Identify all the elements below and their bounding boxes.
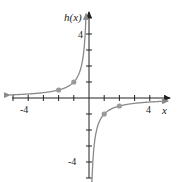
x-axis-label: x — [161, 104, 167, 116]
y-axis-label: h(x) — [64, 11, 82, 24]
data-point — [102, 111, 107, 116]
function-graph: h(x) x -4 4 4 -4 — [0, 0, 178, 182]
data-point — [71, 79, 76, 84]
x-tick-label-4: 4 — [146, 104, 151, 115]
y-tick-label-4: 4 — [78, 29, 83, 40]
x-tick-label-neg4: -4 — [20, 104, 28, 115]
y-tick-label-neg4: -4 — [68, 156, 76, 167]
data-point — [117, 103, 122, 108]
data-point — [56, 87, 61, 92]
